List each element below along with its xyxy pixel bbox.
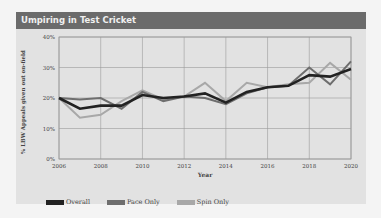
y-axis-ticks: 0%10%20%30%40% xyxy=(43,34,55,162)
series-line-pace-only xyxy=(59,61,351,108)
legend-label: Spin Only xyxy=(197,198,229,206)
svg-text:20%: 20% xyxy=(43,95,55,101)
svg-text:2008: 2008 xyxy=(94,163,108,169)
legend-item-overall[interactable]: Overall xyxy=(46,198,90,206)
chart-card: Umpiring in Test Cricket 0%10%20%30%40% … xyxy=(16,12,366,204)
series-line-overall xyxy=(59,69,351,109)
legend-item-pace[interactable]: Pace Only xyxy=(107,198,160,206)
spin-swatch-icon xyxy=(177,200,195,205)
legend-label: Overall xyxy=(66,198,90,206)
svg-text:2014: 2014 xyxy=(219,163,233,169)
svg-text:30%: 30% xyxy=(43,65,55,71)
pace-swatch-icon xyxy=(107,200,125,205)
x-axis-label: Year xyxy=(197,171,213,178)
svg-text:2018: 2018 xyxy=(302,163,316,169)
series-lines xyxy=(59,61,351,117)
line-chart: 0%10%20%30%40% 2006200820102012201420162… xyxy=(16,12,366,204)
svg-text:2010: 2010 xyxy=(135,163,149,169)
svg-text:10%: 10% xyxy=(43,126,55,132)
svg-text:2020: 2020 xyxy=(344,163,358,169)
overall-swatch-icon xyxy=(46,200,64,205)
svg-text:40%: 40% xyxy=(43,34,55,40)
svg-text:2006: 2006 xyxy=(52,163,66,169)
svg-text:2012: 2012 xyxy=(177,163,191,169)
svg-text:2016: 2016 xyxy=(261,163,275,169)
x-axis-ticks: 20062008201020122014201620182020 xyxy=(52,163,358,169)
legend-label: Pace Only xyxy=(127,198,160,206)
y-axis-label: % LBW Appeals given out on-field xyxy=(20,50,27,154)
chart-legend: Overall Pace Only Spin Only xyxy=(46,198,246,206)
series-line-spin-only xyxy=(59,63,351,118)
svg-text:0%: 0% xyxy=(46,156,55,162)
legend-item-spin[interactable]: Spin Only xyxy=(177,198,229,206)
